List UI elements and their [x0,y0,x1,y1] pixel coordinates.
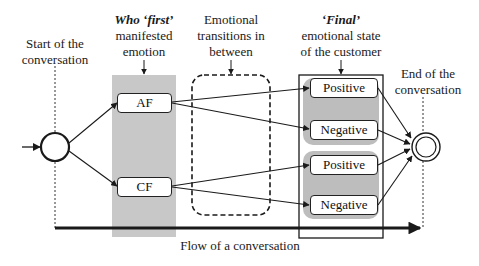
label-who-first-line2: manifested [94,28,194,44]
node-final-positive-cf: Positive [310,155,378,175]
node-final-negative-af: Negative [310,120,378,140]
edge-af-negative [172,103,309,129]
label-who-first-title: Who ‘first’ [115,12,174,27]
label-transitions-line3: between [181,44,281,60]
label-transitions-line2: transitions in [181,28,281,44]
edge-start-af [69,103,117,143]
label-transitions: Emotional transitions in between [181,12,281,60]
label-final-line3: of the customer [286,44,396,60]
label-final: ‘Final’ emotional state of the customer [286,12,396,60]
label-who-first-line3: emotion [94,44,194,60]
node-cf: CF [117,177,172,197]
label-who-first: Who ‘first’ manifested emotion [94,12,194,60]
label-end: End of the conversation [378,66,478,98]
label-final-line2: emotional state [286,28,396,44]
label-transitions-line1: Emotional [181,12,281,28]
edge-start-cf [69,151,117,186]
label-flow: Flow of a conversation [140,238,340,254]
node-final-negative-cf: Negative [310,195,378,215]
node-af: AF [117,93,172,113]
start-node [41,133,69,161]
label-end-line2: conversation [378,82,478,98]
label-end-line1: End of the [378,66,478,82]
end-node-inner [416,137,436,157]
label-final-title: ‘Final’ [322,12,360,27]
node-final-positive-af: Positive [310,78,378,98]
